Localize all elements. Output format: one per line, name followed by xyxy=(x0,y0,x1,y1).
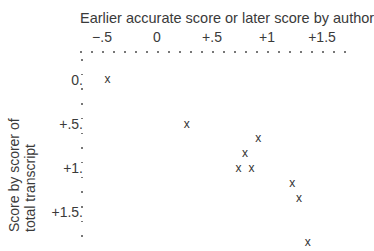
x-axis-dot xyxy=(124,51,126,53)
y-axis-dot xyxy=(81,147,83,149)
x-axis-dot xyxy=(333,51,335,53)
x-axis-dot xyxy=(168,51,170,53)
x-tick-label: +1 xyxy=(259,29,275,45)
x-axis-dot xyxy=(212,51,214,53)
y-axis-title: Score by scorer of total transcript xyxy=(6,118,38,232)
y-axis-dot xyxy=(81,191,83,193)
x-axis-dot xyxy=(102,51,104,53)
data-point-x-marker: x xyxy=(296,191,302,205)
y-axis-dot xyxy=(81,206,83,208)
y-axis-dot xyxy=(81,118,83,120)
x-tick-label: −.5 xyxy=(92,29,112,45)
x-axis-dot xyxy=(223,51,225,53)
y-axis-dot xyxy=(81,162,83,164)
data-point-x-marker: x xyxy=(184,117,190,131)
y-axis-dot xyxy=(81,59,83,61)
x-axis-dot xyxy=(179,51,181,53)
y-axis-dot xyxy=(81,235,83,237)
x-tick-label: +.5 xyxy=(202,29,222,45)
y-tick-label: +.5. xyxy=(59,116,83,132)
x-tick-label: 0 xyxy=(153,29,161,45)
x-axis-dot xyxy=(113,51,115,53)
x-axis-dot xyxy=(245,51,247,53)
y-axis-dot xyxy=(81,88,83,90)
x-axis-dot xyxy=(344,51,346,53)
y-axis-title-line-2: total transcript xyxy=(22,118,38,232)
x-axis-dot xyxy=(135,51,137,53)
x-axis-dot xyxy=(256,51,258,53)
data-point-x-marker: x xyxy=(249,161,255,175)
y-axis-dot xyxy=(81,74,83,76)
x-axis-dot xyxy=(300,51,302,53)
y-axis-title-line-1: Score by scorer of xyxy=(6,118,22,232)
x-axis-dot xyxy=(157,51,159,53)
x-axis-dot xyxy=(234,51,236,53)
data-point-x-marker: x xyxy=(242,146,248,160)
x-axis-dot xyxy=(278,51,280,53)
x-axis-dot xyxy=(91,51,93,53)
data-point-x-marker: x xyxy=(305,235,311,249)
y-axis-dot xyxy=(81,103,83,105)
x-axis-dot xyxy=(80,51,82,53)
y-tick-label: +1.5. xyxy=(51,204,83,220)
x-axis-dot xyxy=(146,51,148,53)
y-axis-dot xyxy=(81,221,83,223)
x-axis-title: Earlier accurate score or later score by… xyxy=(80,10,374,26)
data-point-x-marker: x xyxy=(235,161,241,175)
x-axis-dot xyxy=(190,51,192,53)
x-axis-dot xyxy=(311,51,313,53)
x-axis-dot xyxy=(267,51,269,53)
x-tick-label: +1.5 xyxy=(308,29,336,45)
x-axis-dot xyxy=(322,51,324,53)
x-axis-dot xyxy=(289,51,291,53)
data-point-x-marker: x xyxy=(289,176,295,190)
data-point-x-marker: x xyxy=(105,72,111,86)
y-axis-dot xyxy=(81,177,83,179)
data-point-x-marker: x xyxy=(255,131,261,145)
y-axis-dot xyxy=(81,133,83,135)
x-axis-dot xyxy=(201,51,203,53)
